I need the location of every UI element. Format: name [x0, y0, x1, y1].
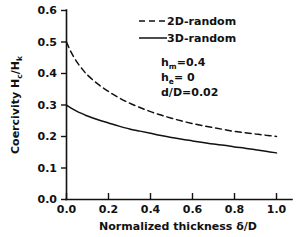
x-tick-label-4: 0.8	[225, 203, 245, 216]
y-axis-title-word: Coercivity	[9, 92, 22, 154]
y-axis-title-denominator: H	[9, 61, 22, 70]
y-axis-ticks	[61, 11, 66, 200]
annotation-h-e-rest: = 0	[174, 71, 195, 84]
x-axis-title: Normalized thickness δ/D	[99, 220, 257, 233]
annotation-h-e: he= 0	[161, 71, 195, 86]
chart-annotations: hm=0.4 he= 0 d/D=0.02	[161, 56, 218, 99]
chart-legend: 2D-random 3D-random	[139, 15, 236, 45]
y-axis-title-denominator-sub: k	[15, 55, 24, 61]
y-tick-label-2: 0.2	[38, 130, 58, 143]
legend-item-2d-random: 2D-random	[139, 15, 236, 28]
series-line-3d-random	[67, 105, 277, 153]
x-tick-label-0: 0.0	[57, 203, 77, 216]
x-axis-title-word2: thickness	[173, 220, 233, 233]
annotation-h-m-base: h	[161, 56, 169, 69]
x-axis-title-symbol: δ/D	[236, 220, 257, 233]
annotation-h-e-base: h	[161, 71, 169, 84]
annotation-h-m: hm=0.4	[161, 56, 206, 71]
annotation-h-m-rest: =0.4	[177, 56, 206, 69]
chart-canvas: 0.6 0.5 0.4 0.3 0.2 0.1 0.0 0.0 0.2 0.4 …	[0, 0, 303, 237]
legend-item-3d-random: 3D-random	[139, 32, 236, 45]
y-axis-tick-labels: 0.6 0.5 0.4 0.3 0.2 0.1 0.0	[38, 4, 58, 206]
annotation-d-over-D: d/D=0.02	[161, 86, 218, 99]
chart-figure: 0.6 0.5 0.4 0.3 0.2 0.1 0.0 0.0 0.2 0.4 …	[0, 0, 303, 237]
y-tick-label-6: 0.6	[38, 4, 58, 17]
y-axis-title-numerator: H	[9, 79, 22, 88]
y-tick-label-4: 0.4	[38, 67, 58, 80]
annotation-h-m-sub: m	[169, 62, 177, 71]
legend-label-2d-random: 2D-random	[167, 15, 236, 28]
svg-text:Normalized thickness δ/D: Normalized thickness δ/D	[99, 220, 257, 233]
x-axis-tick-labels: 0.0 0.2 0.4 0.6 0.8 1.0	[57, 203, 287, 216]
annotation-d-over-D-base: d/D	[161, 86, 182, 99]
legend-label-3d-random: 3D-random	[167, 32, 236, 45]
svg-text:Coercivity Hc/Hk: Coercivity Hc/Hk	[9, 55, 24, 154]
x-axis-title-word1: Normalized	[99, 220, 169, 233]
x-tick-label-5: 1.0	[267, 203, 287, 216]
y-tick-label-1: 0.1	[38, 162, 58, 175]
y-tick-label-3: 0.3	[38, 99, 58, 112]
y-tick-label-5: 0.5	[38, 36, 58, 49]
x-axis-ticks	[67, 193, 277, 199]
y-axis-title: Coercivity Hc/Hk	[9, 55, 24, 154]
y-tick-label-0: 0.0	[38, 193, 58, 206]
x-tick-label-3: 0.6	[183, 203, 203, 216]
x-tick-label-1: 0.2	[99, 203, 119, 216]
x-tick-label-2: 0.4	[141, 203, 161, 216]
annotation-d-over-D-rest: =0.02	[182, 86, 218, 99]
